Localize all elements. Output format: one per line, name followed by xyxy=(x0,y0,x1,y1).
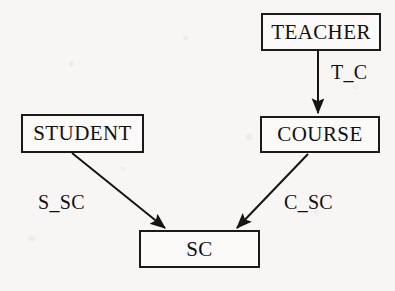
entity-label-teacher: TEACHER xyxy=(271,22,371,43)
entity-label-student: STUDENT xyxy=(33,123,131,144)
edge-label-t-c: T_C xyxy=(331,61,367,84)
entity-label-course: COURSE xyxy=(277,124,362,145)
entity-node-teacher[interactable]: TEACHER xyxy=(261,13,381,51)
entity-node-sc[interactable]: SC xyxy=(139,230,260,268)
edge-student-to-sc xyxy=(72,153,165,228)
edge-label-c-sc: C_SC xyxy=(284,191,333,214)
entity-node-course[interactable]: COURSE xyxy=(260,116,380,153)
diagram-canvas: TEACHER STUDENT COURSE SC T_C S_SC C_SC xyxy=(0,0,395,291)
edge-label-s-sc: S_SC xyxy=(38,191,85,214)
entity-node-student[interactable]: STUDENT xyxy=(21,114,144,153)
entity-label-sc: SC xyxy=(186,239,213,260)
